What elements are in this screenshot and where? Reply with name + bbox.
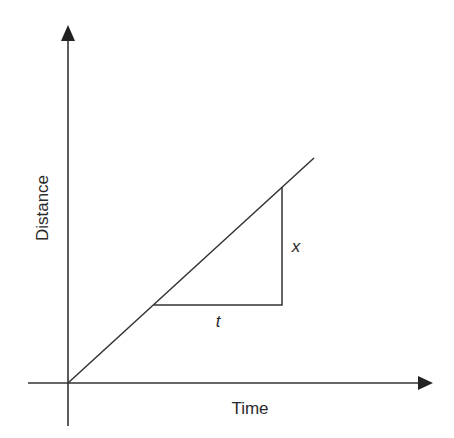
- distance-time-graph: Time Distance x t: [0, 0, 454, 438]
- y-axis-arrow-icon: [61, 25, 75, 41]
- x-axis-label: Time: [231, 399, 268, 418]
- rise-label: x: [291, 237, 301, 256]
- distance-time-line: [68, 158, 314, 383]
- y-axis-label: Distance: [33, 175, 52, 241]
- x-axis-arrow-icon: [418, 376, 433, 390]
- run-label: t: [216, 312, 222, 331]
